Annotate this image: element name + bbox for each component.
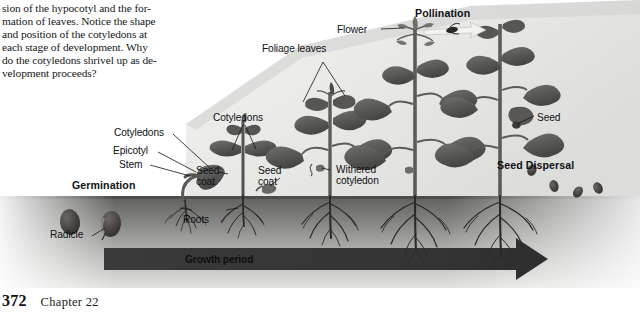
label-radicle: Radicle [50,229,83,240]
label-seed-coat-2: Seed coat [258,165,281,188]
label-germination: Germination [72,180,136,191]
label-flower: Flower [337,24,367,35]
soil-layer [0,196,640,288]
label-seed-dispersal: Seed Dispersal [497,160,574,171]
label-growth-period: Growth period [185,254,253,265]
label-foliage-leaves: Foliage leaves [262,43,326,54]
label-seed-coat-1: Seed coat [196,165,219,188]
body-paragraph: sion of the hypocotyl and the for- matio… [2,2,170,81]
label-withered-cotyledon: Withered cotyledon [336,164,379,187]
textbook-page: Germination Pollination Seed Dispersal G… [0,0,640,318]
label-cotyledons-germinating: Cotyledons [114,127,164,138]
label-stem: Stem [119,159,142,170]
chapter-label: Chapter 22 [41,295,99,310]
page-footer: 372 Chapter 22 [2,292,99,310]
label-roots: Roots [183,214,209,225]
label-cotyledons-seedling: Cotyledons [213,112,263,123]
label-seed: Seed [537,112,560,123]
label-epicotyl: Epicotyl [113,145,148,156]
page-number: 372 [2,292,27,310]
label-pollination: Pollination [415,8,470,19]
